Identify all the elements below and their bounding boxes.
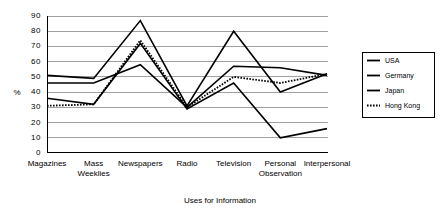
y-tick-label: 90 (17, 11, 41, 20)
data-series-layer (47, 21, 327, 138)
data-series-line (47, 65, 327, 108)
legend-swatch-solid-line-icon (367, 87, 380, 94)
y-tick-label: 50 (17, 72, 41, 81)
x-tick-label-line: Weeklies (58, 169, 130, 179)
y-tick-label: 70 (17, 41, 41, 50)
legend-swatch-solid-line-icon (367, 57, 380, 64)
x-tick-label-line: Observation (244, 169, 316, 179)
x-tick-label: Interpersonal (291, 159, 363, 169)
legend-item-label: USA (385, 57, 399, 64)
chart-legend: USAGermanyJapanHong Kong (362, 52, 435, 118)
legend-item: USA (363, 53, 434, 68)
gridlines (47, 16, 328, 153)
x-axis-title: Uses for Information (140, 196, 300, 206)
legend-item-label: Hong Kong (385, 102, 420, 109)
plot-area (47, 16, 328, 153)
chart-figure: % 0102030405060708090 MagazinesMassWeekl… (0, 0, 441, 212)
y-tick-label: 20 (17, 118, 41, 127)
y-tick-label: 80 (17, 26, 41, 35)
x-tick-label-line: Interpersonal (291, 159, 363, 169)
legend-item-label: Japan (385, 87, 404, 94)
legend-item-label: Germany (385, 72, 414, 79)
y-tick-label: 0 (17, 148, 41, 157)
legend-item: Japan (363, 83, 434, 98)
plot-svg (47, 16, 328, 153)
y-tick-label: 40 (17, 87, 41, 96)
legend-swatch-solid-line-icon (367, 72, 380, 79)
axis-lines (47, 16, 328, 153)
data-series-line (47, 40, 327, 107)
y-tick-label: 10 (17, 133, 41, 142)
legend-swatch-dotted-line-icon (367, 102, 380, 109)
data-series-line (47, 21, 327, 106)
y-tick-label: 60 (17, 57, 41, 66)
legend-item: Hong Kong (363, 98, 434, 113)
y-tick-label: 30 (17, 102, 41, 111)
legend-item: Germany (363, 68, 434, 83)
